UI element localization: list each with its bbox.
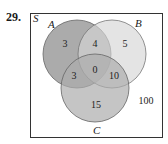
- set-a-label: A: [47, 18, 55, 30]
- region-a-only: 3: [63, 38, 68, 49]
- region-outside: 100: [139, 95, 154, 106]
- set-b-label: B: [135, 17, 142, 29]
- region-b-c-only: 10: [109, 70, 119, 81]
- universe-label: S: [33, 12, 39, 24]
- region-b-only: 5: [123, 38, 128, 49]
- region-a-b-only: 4: [93, 38, 98, 49]
- region-c-only: 15: [91, 99, 101, 110]
- venn-diagram: S A B C 3 4 5 0 3 10 15 100: [0, 0, 168, 144]
- region-a-c-only: 3: [72, 70, 77, 81]
- region-a-b-c: 0: [93, 64, 98, 75]
- set-c-label: C: [93, 124, 101, 136]
